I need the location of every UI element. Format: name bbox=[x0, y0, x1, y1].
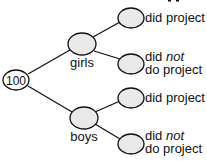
edge-girls-did bbox=[93, 22, 120, 37]
leaf-label: did project bbox=[145, 90, 205, 105]
root-label: 100 bbox=[6, 74, 26, 88]
branch-label-girls: girls bbox=[70, 55, 94, 70]
branch-node-girls: girls bbox=[68, 33, 96, 70]
leaf-girls-did-not-do-project: did not do project bbox=[118, 49, 202, 77]
cropped-text-fragment bbox=[168, 0, 171, 2]
branch-label-boys: boys bbox=[70, 129, 98, 144]
edge-boys-not bbox=[95, 124, 120, 139]
tree-diagram: 100 girls boys did project did not do pr… bbox=[0, 0, 207, 161]
edge-root-girls bbox=[28, 50, 70, 74]
edge-boys-did bbox=[95, 101, 120, 112]
leaf-boys-did-not-do-project: did not do project bbox=[118, 128, 202, 156]
branch-node-boys: boys bbox=[70, 107, 98, 144]
leaf-label: did project bbox=[145, 10, 205, 25]
cropped-text-fragment bbox=[176, 0, 179, 2]
leaf-label-line2: do project bbox=[145, 141, 202, 156]
leaf-label-line2: do project bbox=[145, 62, 202, 77]
edge-girls-not bbox=[94, 51, 120, 59]
leaf-girls-did-project: did project bbox=[118, 8, 205, 28]
leaf-boys-did-project: did project bbox=[118, 88, 205, 108]
root-node: 100 bbox=[3, 70, 29, 90]
edge-root-boys bbox=[28, 86, 72, 112]
